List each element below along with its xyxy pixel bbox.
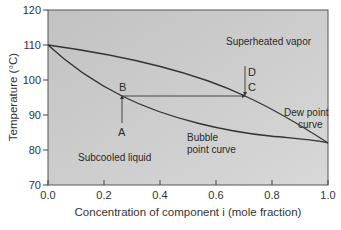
annotation-dew-point-1: Dew point <box>284 107 329 118</box>
annotation-dew-point-2: curve <box>298 119 323 130</box>
y-tick-110: 110 <box>23 39 41 51</box>
x-tick-02: 0.2 <box>96 189 111 201</box>
y-tick-90: 90 <box>29 109 41 121</box>
y-tick-100: 100 <box>23 74 41 86</box>
y-axis <box>43 10 48 185</box>
phase-diagram: 120 110 100 90 80 70 0.0 0.2 0.4 0.6 0.8… <box>0 0 341 230</box>
y-tick-70: 70 <box>29 179 41 191</box>
annotation-subcooled-liquid: Subcooled liquid <box>78 152 151 163</box>
x-axis-title: Concentration of component i (mole fract… <box>75 206 302 218</box>
annotation-bubble-1: Bubble <box>187 132 219 143</box>
x-tick-10: 1.0 <box>320 189 335 201</box>
x-tick-06: 0.6 <box>208 189 223 201</box>
annotation-superheated-vapor: Superheated vapor <box>226 36 312 47</box>
x-tick-0: 0.0 <box>40 189 55 201</box>
point-label-c: C <box>248 81 256 93</box>
point-label-d: D <box>248 66 256 78</box>
point-label-a: A <box>118 126 126 138</box>
y-axis-title: Temperature (°C) <box>7 53 19 141</box>
x-tick-08: 0.8 <box>264 189 279 201</box>
y-tick-80: 80 <box>29 144 41 156</box>
y-tick-120: 120 <box>23 4 41 16</box>
x-tick-04: 0.4 <box>152 189 167 201</box>
point-label-b: B <box>119 81 126 93</box>
annotation-bubble-2: point curve <box>187 144 236 155</box>
